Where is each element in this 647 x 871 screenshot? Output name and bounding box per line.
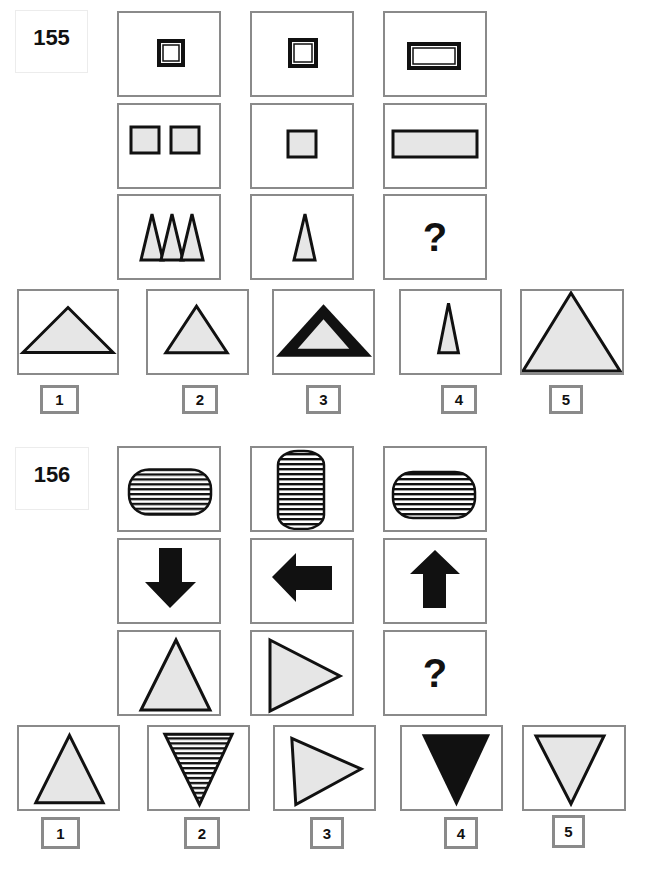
- matrix-cell-r3c2: [250, 630, 354, 716]
- matrix-cell-r3c1: [117, 630, 221, 716]
- matrix-cell-r3c2: [250, 194, 354, 280]
- option-155-4-label[interactable]: 4: [441, 385, 477, 414]
- tall-triangle-icon: [252, 196, 352, 278]
- triangle-icon: [148, 291, 247, 373]
- black-triangle-down-icon: [402, 727, 501, 809]
- square-icon: [252, 105, 352, 187]
- option-155-3[interactable]: [272, 289, 375, 375]
- option-156-1[interactable]: [17, 725, 120, 811]
- vertical-capsule-icon: [252, 448, 352, 530]
- matrix-cell-missing: ?: [383, 630, 487, 716]
- triangle-up-icon: [19, 727, 118, 809]
- triangle-up-icon: [119, 632, 219, 714]
- option-155-2[interactable]: [146, 289, 249, 375]
- matrix-cell-r1c2: [250, 11, 354, 97]
- matrix-cell-r1c3: [383, 446, 487, 532]
- striped-triangle-down-icon: [149, 727, 248, 809]
- option-156-1-label[interactable]: 1: [41, 817, 80, 849]
- matrix-cell-r1c2: [250, 446, 354, 532]
- matrix-cell-r1c1: [117, 11, 221, 97]
- horizontal-capsule-icon: [119, 448, 219, 530]
- arrow-down-icon: [119, 540, 219, 622]
- large-triangle-icon: [522, 291, 622, 373]
- option-155-1-label[interactable]: 1: [40, 385, 79, 414]
- wide-triangle-icon: [19, 291, 117, 373]
- matrix-cell-r3c1: [117, 194, 221, 280]
- arrow-up-icon: [385, 540, 485, 622]
- narrow-triangle-icon: [401, 291, 500, 373]
- matrix-cell-r2c1: [117, 103, 221, 189]
- option-155-3-label[interactable]: 3: [306, 385, 341, 414]
- wide-rectangle-icon: [385, 105, 485, 187]
- triangle-right-icon: [252, 632, 352, 714]
- puzzle-number-155: 155: [15, 10, 88, 73]
- option-156-2[interactable]: [147, 725, 250, 811]
- option-155-5[interactable]: [520, 289, 624, 375]
- option-156-3[interactable]: [273, 725, 376, 811]
- option-156-3-label[interactable]: 3: [310, 817, 344, 849]
- question-mark: ?: [423, 651, 447, 696]
- thick-outline-triangle-icon: [274, 291, 373, 373]
- matrix-cell-r1c3: [383, 11, 487, 97]
- arrow-left-icon: [252, 540, 352, 622]
- option-156-4-label[interactable]: 4: [444, 817, 478, 849]
- option-156-5-label[interactable]: 5: [552, 815, 585, 848]
- question-mark: ?: [423, 215, 447, 260]
- matrix-cell-r2c3: [383, 103, 487, 189]
- option-156-4[interactable]: [400, 725, 503, 811]
- two-squares-icon: [119, 105, 219, 187]
- matrix-cell-r2c2: [250, 538, 354, 624]
- matrix-cell-r2c1: [117, 538, 221, 624]
- puzzle-number-156: 156: [15, 447, 89, 510]
- triangle-down-icon: [524, 727, 624, 809]
- matrix-cell-r2c3: [383, 538, 487, 624]
- option-155-4[interactable]: [399, 289, 502, 375]
- double-outline-square-icon: [119, 13, 219, 95]
- matrix-cell-r2c2: [250, 103, 354, 189]
- horizontal-capsule-icon: [385, 448, 485, 530]
- triangle-right-icon: [275, 727, 374, 809]
- matrix-cell-missing: ?: [383, 194, 487, 280]
- double-outline-rectangle-icon: [385, 13, 485, 95]
- double-outline-square-icon: [252, 13, 352, 95]
- option-155-2-label[interactable]: 2: [182, 385, 218, 414]
- matrix-cell-r1c1: [117, 446, 221, 532]
- three-triangles-icon: [119, 196, 219, 278]
- option-156-5[interactable]: [522, 725, 626, 811]
- option-156-2-label[interactable]: 2: [184, 817, 220, 849]
- option-155-1[interactable]: [17, 289, 119, 375]
- option-155-5-label[interactable]: 5: [549, 385, 583, 414]
